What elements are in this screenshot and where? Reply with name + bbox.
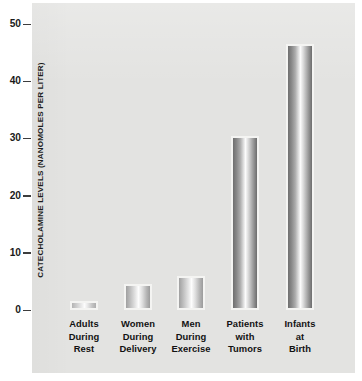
category-label-men-during-exercise: Men During Exercise [161, 318, 221, 356]
bar-women-during-delivery [124, 284, 152, 310]
category-line-3: Exercise [161, 343, 221, 356]
category-line-1: Infants [272, 318, 328, 331]
category-label-infants-at-birth: Infants at Birth [272, 318, 328, 356]
bar-series [0, 0, 362, 310]
bar-infants-at-birth [286, 44, 314, 310]
category-line-3: Birth [272, 343, 328, 356]
category-line-2: at [272, 331, 328, 344]
category-line-1: Adults [56, 318, 112, 331]
category-line-3: Tumors [215, 343, 275, 356]
category-label-patients-with-tumors: Patients with Tumors [215, 318, 275, 356]
bar-patients-with-tumors [231, 136, 259, 310]
bar-men-during-exercise [177, 276, 205, 310]
category-line-3: Delivery [108, 343, 168, 356]
category-line-3: Rest [56, 343, 112, 356]
category-line-1: Patients [215, 318, 275, 331]
category-label-women-during-delivery: Women During Delivery [108, 318, 168, 356]
category-line-2: During [161, 331, 221, 344]
category-line-2: During [56, 331, 112, 344]
category-line-1: Men [161, 318, 221, 331]
category-label-adults-during-rest: Adults During Rest [56, 318, 112, 356]
category-line-2: with [215, 331, 275, 344]
chart-figure: CATECHOLAMINE LEVELS (NANOMOLES PER LITE… [0, 0, 362, 381]
bar-adults-during-rest [70, 301, 98, 310]
category-line-2: During [108, 331, 168, 344]
category-line-1: Women [108, 318, 168, 331]
